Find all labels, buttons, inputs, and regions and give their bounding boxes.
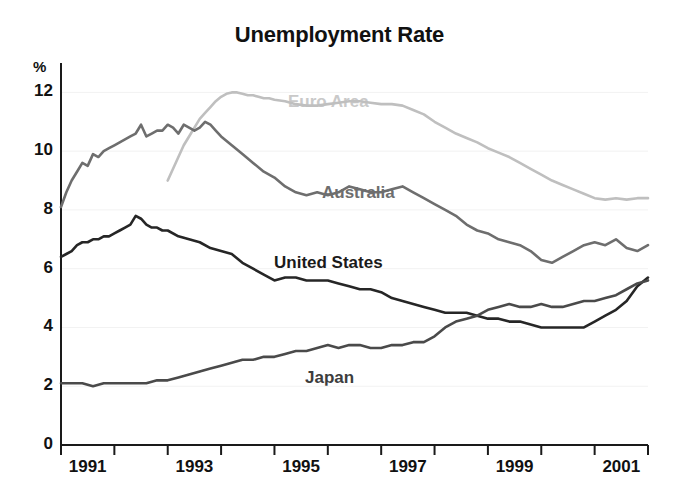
plot-area [0,0,679,503]
series-line-euro-area [168,92,648,199]
series-line-australia [61,122,648,263]
series-line-united-states [61,216,648,328]
series-line-japan [61,280,648,386]
unemployment-rate-chart: Unemployment Rate % 024681012 1991199319… [0,0,679,503]
